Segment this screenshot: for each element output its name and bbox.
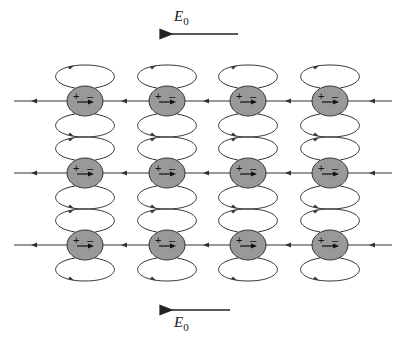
field-arrow-icon bbox=[31, 243, 37, 248]
field-arrow-icon bbox=[285, 99, 291, 104]
minus-sign: – bbox=[250, 162, 257, 174]
field-arrow-icon bbox=[121, 99, 127, 104]
field-symbol: E bbox=[174, 314, 183, 330]
plus-sign: + bbox=[73, 234, 79, 246]
minus-sign: – bbox=[250, 234, 257, 246]
minus-sign: – bbox=[169, 90, 176, 102]
plus-sign: + bbox=[155, 234, 161, 246]
field-arrow-icon bbox=[203, 171, 209, 176]
field-arrow-icon bbox=[31, 171, 37, 176]
plus-sign: + bbox=[236, 162, 242, 174]
field-arrow-icon bbox=[369, 243, 375, 248]
field-symbol: E bbox=[174, 8, 183, 24]
minus-sign: – bbox=[87, 162, 94, 174]
field-arrow-icon bbox=[121, 171, 127, 176]
field-subscript: 0 bbox=[183, 321, 189, 333]
minus-sign: – bbox=[169, 234, 176, 246]
plus-sign: + bbox=[155, 90, 161, 102]
minus-sign: – bbox=[332, 162, 339, 174]
field-arrow-icon bbox=[203, 99, 209, 104]
field-subscript: 0 bbox=[183, 15, 189, 27]
dipole-field-diagram: +–+–+–+–+–+–+–+–+–+–+–+– bbox=[0, 0, 409, 350]
field-label-top: E0 bbox=[174, 8, 189, 27]
field-arrow-icon bbox=[369, 171, 375, 176]
dipole-row: +–+–+–+– bbox=[14, 65, 392, 137]
minus-sign: – bbox=[332, 90, 339, 102]
minus-sign: – bbox=[332, 234, 339, 246]
dipole-grid: +–+–+–+–+–+–+–+–+–+–+–+– bbox=[14, 65, 392, 281]
field-label-bottom: E0 bbox=[174, 314, 189, 333]
field-arrow-icon bbox=[285, 243, 291, 248]
field-arrow-icon bbox=[121, 243, 127, 248]
minus-sign: – bbox=[169, 162, 176, 174]
plus-sign: + bbox=[155, 162, 161, 174]
dipole-row: +–+–+–+– bbox=[14, 137, 392, 209]
field-arrow-icon bbox=[285, 171, 291, 176]
field-arrow-icon bbox=[31, 99, 37, 104]
plus-sign: + bbox=[73, 90, 79, 102]
field-arrow-icon bbox=[203, 243, 209, 248]
plus-sign: + bbox=[318, 90, 324, 102]
minus-sign: – bbox=[87, 234, 94, 246]
plus-sign: + bbox=[318, 162, 324, 174]
plus-sign: + bbox=[318, 234, 324, 246]
plus-sign: + bbox=[236, 90, 242, 102]
minus-sign: – bbox=[87, 90, 94, 102]
plus-sign: + bbox=[236, 234, 242, 246]
plus-sign: + bbox=[73, 162, 79, 174]
minus-sign: – bbox=[250, 90, 257, 102]
field-arrow-icon bbox=[369, 99, 375, 104]
dipole-row: +–+–+–+– bbox=[14, 209, 392, 281]
